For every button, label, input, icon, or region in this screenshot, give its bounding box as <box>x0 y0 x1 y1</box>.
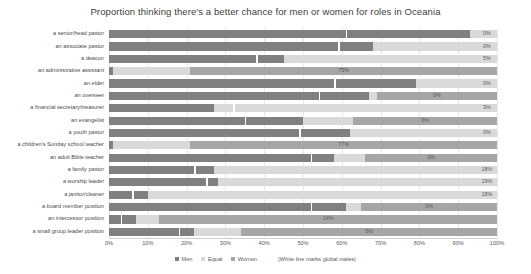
bar-row <box>109 178 497 186</box>
x-axis-tick-label: 30% <box>220 241 231 247</box>
bar-segment-men <box>109 79 416 87</box>
global-male-marker <box>206 178 208 186</box>
bar-value-label: 19% <box>482 180 493 185</box>
bar-value-label: 0% <box>433 93 441 98</box>
bar-value-label: 18% <box>482 192 493 197</box>
bar-value-label: 3% <box>483 106 491 111</box>
bar-segment-equal <box>113 67 191 75</box>
category-label: a senior/head pastor <box>53 31 104 37</box>
bar-row <box>109 228 497 236</box>
category-label: a youth pastor <box>69 130 104 136</box>
x-axis-tick-label: 40% <box>259 241 270 247</box>
bar-segment-equal <box>369 92 377 100</box>
global-male-marker <box>319 92 321 100</box>
bar-segment-equal <box>214 166 497 174</box>
category-label: an administrative assistant <box>38 68 104 74</box>
x-axis-line <box>109 238 497 239</box>
global-male-marker <box>121 215 123 223</box>
bar-row <box>109 79 497 87</box>
bar-segment-equal <box>334 154 365 162</box>
legend-swatch-women-icon <box>231 257 235 261</box>
bar-segment-equal <box>113 141 191 149</box>
bar-segment-men <box>109 117 303 125</box>
global-male-marker <box>194 166 196 174</box>
legend-swatch-men-icon <box>175 257 179 261</box>
bar-value-label: 3% <box>365 229 373 234</box>
legend-swatch-equal-icon <box>201 257 205 261</box>
bar-segment-men <box>109 215 136 223</box>
bar-value-label: 5% <box>483 56 491 61</box>
legend-item-women: Women <box>231 256 257 262</box>
bar-row <box>109 191 497 199</box>
x-axis-tick-label: 20% <box>181 241 192 247</box>
category-label: a small group leader position <box>32 229 104 235</box>
bar-value-label: 14% <box>323 217 334 222</box>
category-label: a family pastor <box>68 167 104 173</box>
category-label: an elder <box>84 81 104 87</box>
bar-value-label: 0% <box>483 130 491 135</box>
category-label: an overseer <box>74 93 104 99</box>
category-label: a children's Sunday school teacher <box>17 143 104 149</box>
bar-segment-men <box>109 166 214 174</box>
x-axis-tick-label: 0% <box>105 241 113 247</box>
chart-title: Proportion thinking there's a better cha… <box>0 6 531 17</box>
bar-value-label: 0% <box>421 118 429 123</box>
global-male-marker <box>311 203 313 211</box>
bar-segment-equal <box>303 117 353 125</box>
gridline <box>497 28 498 238</box>
bar-segment-equal <box>148 191 497 199</box>
global-male-marker <box>132 191 134 199</box>
legend-item-men: Men <box>175 256 192 262</box>
global-male-marker <box>233 104 235 112</box>
bar-row <box>109 154 497 162</box>
category-label: a board member position <box>42 204 104 210</box>
bar-value-label: 18% <box>482 167 493 172</box>
category-label: a deacon <box>81 56 104 62</box>
legend-item-equal: Equal <box>201 256 222 262</box>
plot-area: 0%0%5%75%0%0%3%0%0%77%3%18%19%18%0%14%3% <box>109 28 497 238</box>
bar-row <box>109 67 497 75</box>
global-male-marker <box>346 30 348 38</box>
bar-segment-men <box>109 154 334 162</box>
category-axis: a senior/head pastoran associate pastora… <box>0 28 107 238</box>
bar-row <box>109 203 497 211</box>
bar-segment-men <box>109 228 194 236</box>
legend-label-equal: Equal <box>208 256 222 262</box>
bar-value-label: 0% <box>483 81 491 86</box>
global-male-marker <box>245 117 247 125</box>
bar-segment-men <box>109 129 350 137</box>
bar-segment-equal <box>194 228 241 236</box>
bar-segment-men <box>109 178 218 186</box>
bar-value-label: 77% <box>338 143 349 148</box>
global-male-marker <box>338 42 340 50</box>
bar-segment-men <box>109 191 148 199</box>
category-label: a janitor/cleaner <box>64 192 104 198</box>
bar-row <box>109 30 497 38</box>
bar-row <box>109 55 497 63</box>
category-label: a financial secretary/treasurer <box>30 105 104 111</box>
bar-row <box>109 42 497 50</box>
bar-value-label: 3% <box>427 155 435 160</box>
category-label: an associate pastor <box>55 44 104 50</box>
global-male-marker <box>334 79 336 87</box>
global-male-marker <box>311 154 313 162</box>
global-male-marker <box>256 55 258 63</box>
bar-row <box>109 129 497 137</box>
x-axis-tick-label: 50% <box>297 241 308 247</box>
bar-value-label: 0% <box>483 44 491 49</box>
bar-segment-equal <box>373 42 497 50</box>
category-label: an adult Bible teacher <box>50 155 104 161</box>
legend-note: (White line marks global males) <box>278 256 356 262</box>
bar-value-label: 0% <box>425 204 433 209</box>
category-label: an intercessor position <box>48 217 104 223</box>
legend-label-men: Men <box>182 256 193 262</box>
bar-segment-men <box>109 104 214 112</box>
bar-segment-equal <box>346 203 362 211</box>
bar-row <box>109 117 497 125</box>
global-male-marker <box>299 129 301 137</box>
x-axis: 0%10%20%30%40%50%60%70%80%90%100% <box>109 238 497 250</box>
bar-row <box>109 104 497 112</box>
x-axis-tick-label: 60% <box>336 241 347 247</box>
bar-row <box>109 141 497 149</box>
x-axis-tick-label: 100% <box>490 241 504 247</box>
